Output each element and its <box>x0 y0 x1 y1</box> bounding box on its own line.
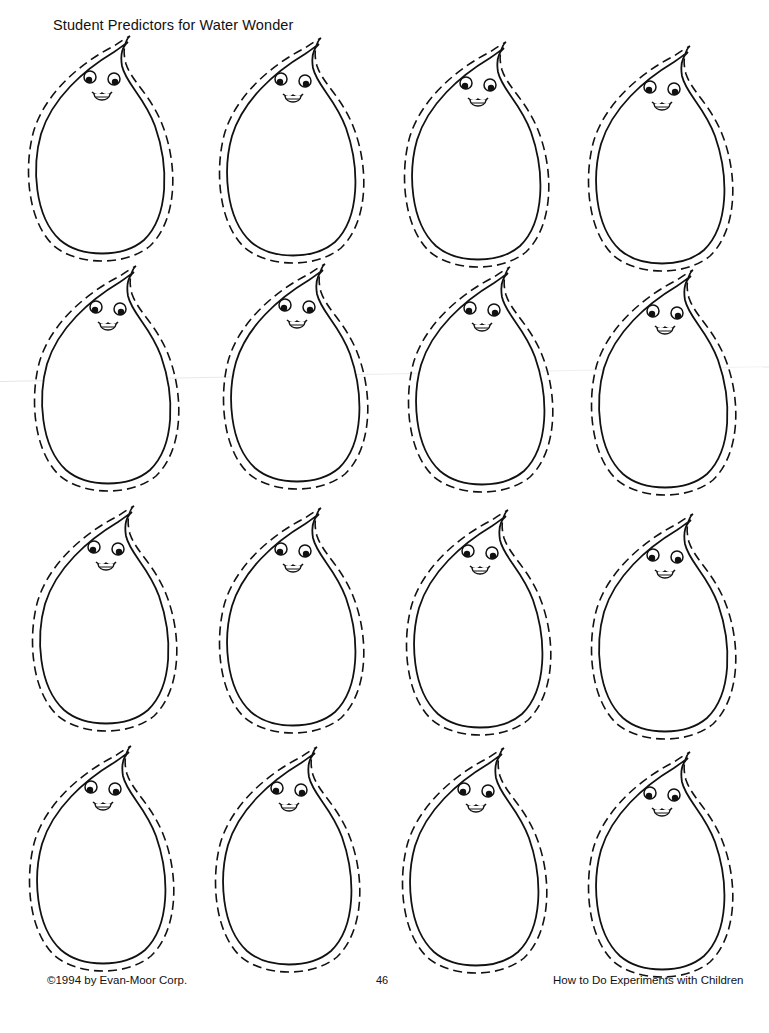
water-drop-r1-c4 <box>582 44 742 274</box>
water-drop-icon <box>582 750 742 980</box>
water-drop-r3-c1 <box>26 504 186 734</box>
water-drop-r4-c1 <box>23 744 183 974</box>
water-drop-icon <box>213 506 373 736</box>
water-drop-icon <box>400 508 560 738</box>
water-drop-r2-c4 <box>585 268 745 498</box>
water-drop-r1-c2 <box>213 36 373 266</box>
water-drop-r3-c2 <box>213 506 373 736</box>
water-drop-r3-c3 <box>400 508 560 738</box>
page-title: Student Predictors for Water Wonder <box>53 17 293 33</box>
water-drop-icon <box>28 264 188 494</box>
water-drop-r4-c2 <box>209 745 369 975</box>
water-drop-icon <box>585 512 745 742</box>
water-drop-icon <box>26 504 186 734</box>
water-drop-r1-c1 <box>22 34 182 264</box>
book-title-footer: How to Do Experiments with Children <box>553 974 743 986</box>
water-drop-icon <box>22 34 182 264</box>
water-drop-icon <box>582 44 742 274</box>
copyright-footer: ©1994 by Evan-Moor Corp. <box>47 974 187 986</box>
water-drop-r4-c3 <box>396 746 556 976</box>
water-drop-r2-c3 <box>402 265 562 495</box>
water-drop-icon <box>23 744 183 974</box>
water-drop-r2-c1 <box>28 264 188 494</box>
water-drop-icon <box>585 268 745 498</box>
water-drop-r3-c4 <box>585 512 745 742</box>
page-number: 46 <box>376 974 388 986</box>
water-drop-r2-c2 <box>217 262 377 492</box>
water-drop-icon <box>396 746 556 976</box>
water-drop-icon <box>217 262 377 492</box>
water-drop-icon <box>209 745 369 975</box>
water-drop-icon <box>213 36 373 266</box>
water-drop-icon <box>398 40 558 270</box>
water-drop-r4-c4 <box>582 750 742 980</box>
water-drop-r1-c3 <box>398 40 558 270</box>
water-drop-icon <box>402 265 562 495</box>
